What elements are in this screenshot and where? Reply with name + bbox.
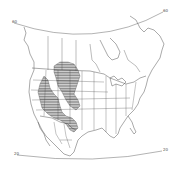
latitude-label-bottom-right: 20 [163,148,168,152]
hudson-bay [100,38,120,60]
latitude-label-bottom-left: 20 [14,152,19,156]
latitude-arc-20 [17,151,162,159]
latitude-arc-60 [14,12,163,34]
florida [128,116,136,134]
latitude-label-top-right: 60 [163,9,168,13]
range-map: 60 60 20 20 [0,0,179,170]
latitude-label-top-left: 60 [12,20,17,24]
map-canvas [0,0,179,170]
